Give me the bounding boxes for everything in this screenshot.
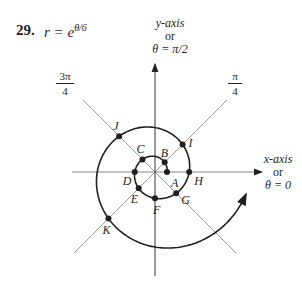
label-3pi-over-4: 3π4 xyxy=(56,70,74,97)
point-K xyxy=(105,216,111,222)
point-label-C: C xyxy=(136,142,144,157)
point-G xyxy=(173,190,179,196)
y-axis-label: y-axis or θ = π/2 xyxy=(140,17,200,56)
point-A xyxy=(164,169,170,175)
point-label-A: A xyxy=(171,176,178,191)
point-D xyxy=(132,169,138,175)
point-F xyxy=(152,195,158,201)
point-label-G: G xyxy=(181,193,190,208)
point-H xyxy=(186,169,192,175)
point-E xyxy=(136,185,142,191)
label-pi-over-4: π4 xyxy=(228,70,242,97)
point-label-K: K xyxy=(102,223,110,238)
equation: r = eθ/6 xyxy=(44,22,87,41)
problem-number: 29. xyxy=(16,22,35,39)
point-label-E: E xyxy=(131,192,138,207)
point-label-I: I xyxy=(189,136,193,151)
point-label-F: F xyxy=(153,203,160,218)
point-I xyxy=(180,141,186,147)
x-axis-label: x-axis or θ = 0 xyxy=(254,153,302,192)
point-label-B: B xyxy=(161,146,168,161)
point-label-D: D xyxy=(123,174,132,189)
point-label-J: J xyxy=(113,119,118,134)
point-label-H: H xyxy=(194,174,203,189)
